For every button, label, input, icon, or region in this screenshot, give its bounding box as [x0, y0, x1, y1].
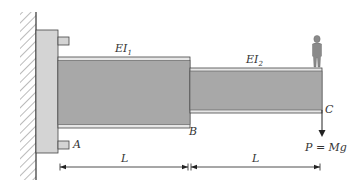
- bolt-bottom: [58, 141, 69, 149]
- arrow-head-icon: [319, 130, 326, 137]
- fixed-wall: [20, 12, 36, 180]
- length-label-1: L: [120, 152, 128, 165]
- beam-segment-1: [58, 57, 190, 128]
- support-plate: [36, 30, 58, 153]
- label-ei2: EI2: [245, 53, 263, 68]
- bolt-top: [58, 37, 69, 45]
- point-label-a: A: [72, 138, 81, 151]
- cantilever-diagram: EI1 EI2 A B C P = Mg L L: [0, 0, 352, 186]
- length-label-2: L: [251, 152, 259, 165]
- person-icon: [313, 35, 322, 67]
- label-ei1: EI1: [114, 42, 132, 57]
- beam-segment-2: [190, 68, 322, 113]
- load-label: P = Mg: [304, 141, 347, 154]
- point-label-b: B: [188, 125, 197, 138]
- wall-hatch: [20, 12, 36, 180]
- point-label-c: C: [325, 103, 334, 116]
